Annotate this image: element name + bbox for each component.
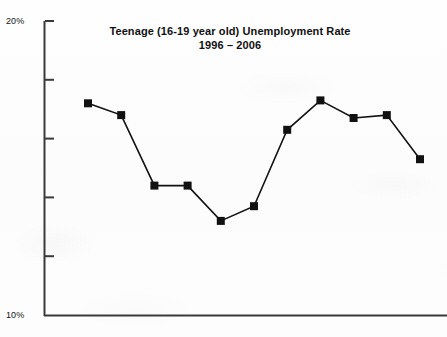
data-point-2004 <box>350 114 358 122</box>
chart-title-line-2: 1996 – 2006 <box>60 38 400 52</box>
data-point-2003 <box>316 96 324 104</box>
data-point-2001 <box>250 202 258 210</box>
chart-title-line-1: Teenage (16-19 year old) Unemployment Ra… <box>60 24 400 38</box>
data-point-1997 <box>117 111 125 119</box>
chart-screenshot: Teenage (16-19 year old) Unemployment Ra… <box>0 0 447 337</box>
data-point-1999 <box>184 182 192 190</box>
y-axis-ticks <box>45 21 54 256</box>
data-point-2006 <box>416 155 424 163</box>
chart-title: Teenage (16-19 year old) Unemployment Ra… <box>60 24 400 52</box>
data-series-group <box>84 96 424 225</box>
data-point-1998 <box>150 182 158 190</box>
data-point-2002 <box>283 126 291 134</box>
data-point-2000 <box>217 217 225 225</box>
y-axis-max-label: 20% <box>6 16 24 26</box>
data-point-1996 <box>84 99 92 107</box>
data-point-2005 <box>383 111 391 119</box>
axes-group <box>44 21 447 316</box>
y-axis-min-label: 10% <box>6 310 24 320</box>
